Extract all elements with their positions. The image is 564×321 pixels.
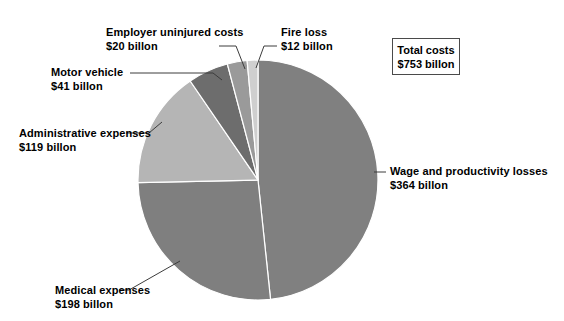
callout-motor-value: $41 billon (51, 80, 123, 94)
callout-employer-label: Employer uninjured costs (106, 26, 243, 40)
callout-admin-label: Administrative expenses (19, 127, 151, 141)
callout-motor-label: Motor vehicle (51, 66, 123, 80)
callout-medical-expenses: Medical expenses $198 billon (55, 284, 150, 311)
callout-medical-label: Medical expenses (55, 284, 150, 298)
callout-employer-uninjured-costs: Employer uninjured costs $20 billon (106, 26, 243, 53)
callout-fire-loss: Fire loss $12 billon (281, 26, 333, 53)
pie-chart-figure: Employer uninjured costs $20 billon Fire… (0, 0, 564, 321)
callout-motor-vehicle: Motor vehicle $41 billon (51, 66, 123, 93)
total-costs-label: Total costs (397, 43, 454, 57)
callout-employer-value: $20 billon (106, 40, 243, 54)
callout-admin-value: $119 billon (19, 141, 151, 155)
callout-wage-value: $364 billon (390, 179, 548, 193)
pie-slice-medical-expenses (138, 180, 271, 300)
total-costs-value: $753 billon (398, 57, 455, 71)
callout-fire-value: $12 billon (281, 40, 333, 54)
callout-wage-productivity-losses: Wage and productivity losses $364 billon (390, 165, 548, 192)
callout-fire-label: Fire loss (281, 26, 333, 40)
callout-wage-label: Wage and productivity losses (390, 165, 548, 179)
callout-medical-value: $198 billon (55, 298, 150, 312)
callout-administrative-expenses: Administrative expenses $119 billon (19, 127, 151, 154)
total-costs-box: Total costs $753 billon (392, 38, 460, 75)
pie-slice-wage-and-productivity-losses (258, 60, 378, 299)
